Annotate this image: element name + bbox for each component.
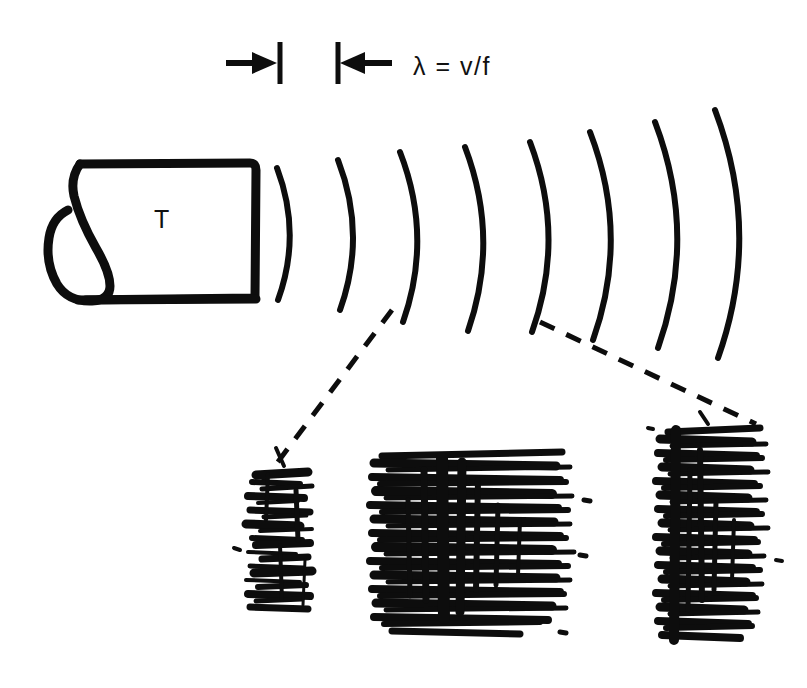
trace-block-near [234,448,312,609]
wavelength-dimension-marker [226,42,392,84]
transducer-group [48,163,256,301]
wavelength-formula-label: λ = v/f [413,52,491,81]
wavefront-arcs [277,110,739,358]
trace-block-focal [370,452,590,634]
wavefront-arc-3 [400,152,417,322]
transducer-bottom-edge [86,299,256,300]
dimension-arrowhead-left-icon [252,52,277,74]
dimension-arrowhead-right-icon [340,52,365,74]
wavefront-arc-2 [338,160,353,310]
wavefront-arc-5 [530,142,549,332]
figure-canvas: λ = v/f T [0,0,807,688]
wavefront-arc-8 [715,110,739,358]
trace-block-far [648,412,782,640]
ultrasound-wave-diagram [0,0,807,688]
transducer-label: T [154,205,169,234]
wavefront-arc-1 [277,168,290,300]
wavefront-arc-7 [655,122,677,348]
transducer-cable-loop [48,164,110,301]
wavefront-arc-6 [590,132,611,340]
wavefront-arc-4 [465,147,483,331]
